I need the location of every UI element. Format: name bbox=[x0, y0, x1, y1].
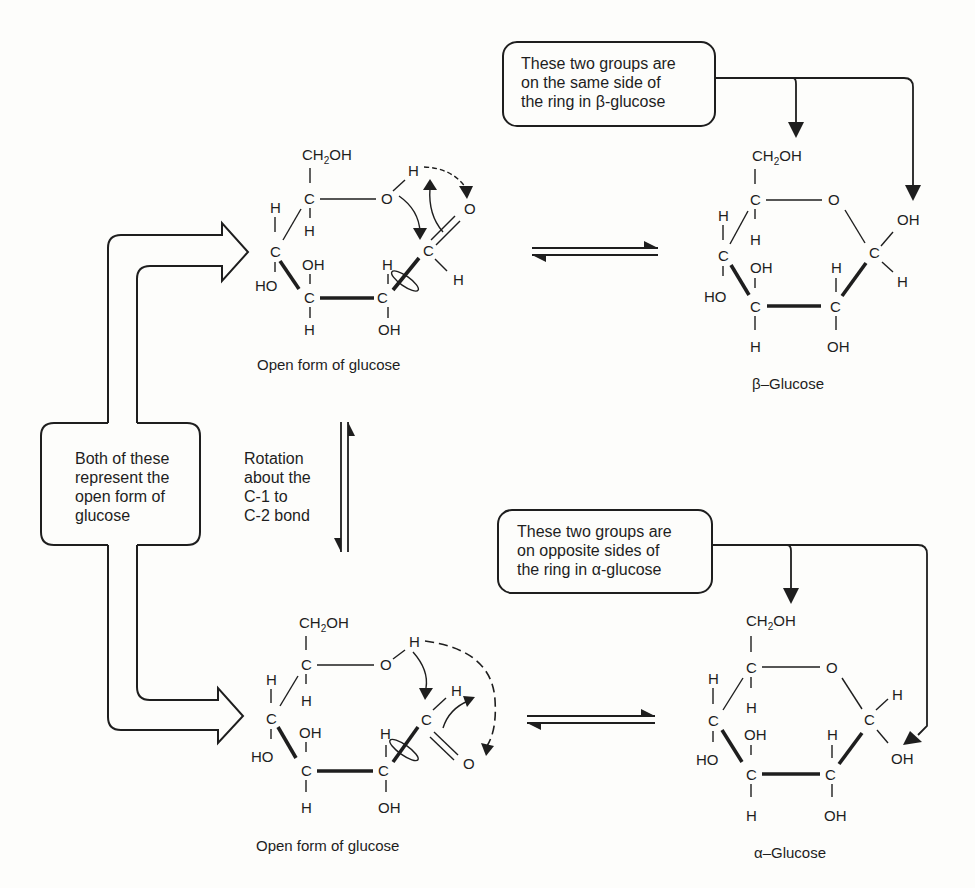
open-form-top: CH2OH C O H H C OH HO C H C H OH C H O H bbox=[255, 146, 476, 373]
svg-text:CH2OH: CH2OH bbox=[299, 614, 349, 634]
bottom-equilibrium-arrow bbox=[527, 709, 655, 730]
svg-text:C: C bbox=[301, 656, 312, 673]
svg-text:C: C bbox=[304, 190, 315, 207]
svg-text:OH: OH bbox=[897, 211, 920, 228]
caption-open-bottom: Open form of glucose bbox=[256, 837, 399, 854]
alpha-pointer-ch2oh bbox=[712, 545, 791, 588]
svg-text:OH: OH bbox=[891, 750, 914, 767]
svg-text:C: C bbox=[304, 289, 315, 306]
svg-text:H: H bbox=[746, 699, 757, 716]
svg-text:HO: HO bbox=[704, 288, 727, 305]
svg-text:OH: OH bbox=[302, 256, 325, 273]
svg-text:H: H bbox=[270, 199, 281, 216]
svg-text:O: O bbox=[826, 659, 838, 676]
rotation-line-1: Rotation bbox=[244, 450, 304, 467]
beta-callout-line-2: on the same side of bbox=[521, 74, 661, 91]
both-callout-line-1: Both of these bbox=[75, 450, 169, 467]
svg-text:H: H bbox=[408, 162, 419, 179]
svg-text:C: C bbox=[377, 289, 388, 306]
svg-text:C: C bbox=[270, 243, 281, 260]
alpha-pointer-oh bbox=[787, 545, 927, 735]
beta-callout-line-3: the ring in β-glucose bbox=[521, 93, 665, 110]
svg-text:OH: OH bbox=[378, 321, 401, 338]
svg-text:H: H bbox=[304, 222, 315, 239]
both-callout-line-3: open form of bbox=[75, 488, 165, 505]
svg-text:HO: HO bbox=[251, 748, 274, 765]
svg-text:OH: OH bbox=[824, 807, 847, 824]
glucose-diagram: Both of these represent the open form of… bbox=[0, 0, 975, 888]
rotation-line-4: C-2 bond bbox=[244, 507, 310, 524]
beta-pointer-ch2oh bbox=[715, 78, 796, 122]
alpha-callout-line-3: the ring in α-glucose bbox=[517, 561, 662, 578]
svg-text:CH2OH: CH2OH bbox=[302, 146, 352, 166]
caption-open-top: Open form of glucose bbox=[257, 356, 400, 373]
svg-text:OH: OH bbox=[299, 724, 322, 741]
svg-text:O: O bbox=[463, 755, 475, 772]
svg-text:CH2OH: CH2OH bbox=[746, 612, 796, 632]
beta-callout-group: These two groups are on the same side of… bbox=[503, 42, 921, 201]
alpha-glucose: CH2OH C O H H C OH HO C H C H OH C H OH … bbox=[696, 612, 914, 861]
svg-text:H: H bbox=[304, 321, 315, 338]
svg-text:C: C bbox=[825, 766, 836, 783]
svg-text:O: O bbox=[464, 200, 476, 217]
svg-text:C: C bbox=[708, 712, 719, 729]
both-callout-line-4: glucose bbox=[75, 507, 130, 524]
svg-text:C: C bbox=[750, 298, 761, 315]
rotation-line-3: C-1 to bbox=[244, 488, 288, 505]
svg-text:H: H bbox=[301, 692, 312, 709]
rotation-line-2: about the bbox=[244, 469, 311, 486]
svg-text:H: H bbox=[750, 338, 761, 355]
svg-text:H: H bbox=[897, 273, 908, 290]
svg-text:H: H bbox=[409, 633, 420, 650]
svg-text:H: H bbox=[453, 271, 464, 288]
svg-text:H: H bbox=[301, 799, 312, 816]
svg-text:C: C bbox=[301, 762, 312, 779]
svg-text:C: C bbox=[746, 659, 757, 676]
svg-text:O: O bbox=[380, 656, 392, 673]
svg-text:H: H bbox=[831, 259, 842, 276]
both-callout-group: Both of these represent the open form of… bbox=[41, 223, 248, 743]
alpha-callout-group: These two groups are on opposite sides o… bbox=[498, 510, 927, 745]
svg-text:C: C bbox=[718, 247, 729, 264]
svg-text:C: C bbox=[869, 244, 880, 261]
svg-text:HO: HO bbox=[696, 751, 719, 768]
svg-text:C: C bbox=[423, 242, 434, 259]
rotation-ellipse-icon bbox=[387, 736, 421, 764]
svg-text:H: H bbox=[382, 256, 393, 273]
svg-text:OH: OH bbox=[744, 726, 767, 743]
beta-callout-line-1: These two groups are bbox=[521, 55, 676, 72]
svg-text:H: H bbox=[892, 686, 903, 703]
svg-text:H: H bbox=[750, 231, 761, 248]
svg-text:C: C bbox=[266, 710, 277, 727]
open-form-bottom: CH2OH C O H H C OH HO C H C H OH C H O H bbox=[251, 614, 495, 854]
svg-text:C: C bbox=[421, 711, 432, 728]
svg-text:C: C bbox=[750, 191, 761, 208]
beta-pointer-oh bbox=[793, 78, 913, 185]
svg-text:O: O bbox=[828, 191, 840, 208]
vertical-equilibrium-arrow bbox=[334, 422, 355, 552]
rotation-group: Rotation about the C-1 to C-2 bond bbox=[244, 422, 355, 552]
svg-text:H: H bbox=[380, 725, 391, 742]
svg-text:H: H bbox=[708, 670, 719, 687]
alpha-callout-line-1: These two groups are bbox=[517, 523, 672, 540]
alpha-callout-line-2: on opposite sides of bbox=[517, 542, 660, 559]
caption-beta: β–Glucose bbox=[752, 375, 824, 392]
top-equilibrium-arrow bbox=[532, 241, 658, 262]
svg-text:OH: OH bbox=[378, 799, 401, 816]
svg-text:H: H bbox=[266, 671, 277, 688]
svg-text:H: H bbox=[827, 726, 838, 743]
svg-text:CH2OH: CH2OH bbox=[752, 147, 802, 167]
beta-glucose: CH2OH C O H H C OH HO C H C H OH C OH H … bbox=[704, 147, 920, 392]
svg-text:C: C bbox=[746, 766, 757, 783]
svg-text:O: O bbox=[381, 190, 393, 207]
svg-text:C: C bbox=[830, 298, 841, 315]
caption-alpha: α–Glucose bbox=[754, 844, 826, 861]
svg-text:H: H bbox=[451, 682, 462, 699]
svg-text:C: C bbox=[864, 711, 875, 728]
svg-text:OH: OH bbox=[827, 338, 850, 355]
svg-text:OH: OH bbox=[750, 259, 773, 276]
svg-text:H: H bbox=[746, 807, 757, 824]
svg-text:C: C bbox=[378, 762, 389, 779]
both-callout-line-2: represent the bbox=[75, 469, 169, 486]
svg-text:H: H bbox=[718, 207, 729, 224]
